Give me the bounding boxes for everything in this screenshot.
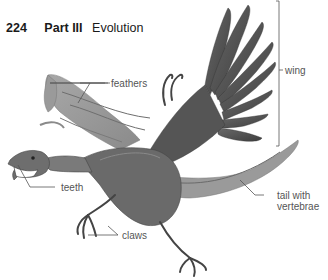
label-tail: tail with vertebrae — [277, 190, 319, 212]
wing-bracket — [276, 1, 283, 146]
wing-claws — [163, 75, 182, 105]
label-tail-line1: tail with — [277, 190, 319, 201]
label-tail-line2: vertebrae — [277, 201, 319, 212]
label-teeth: teeth — [61, 182, 83, 193]
head — [8, 150, 92, 180]
label-feathers: feathers — [111, 78, 147, 89]
label-claws: claws — [122, 230, 147, 241]
body — [80, 148, 181, 226]
right-wing — [150, 5, 276, 165]
archaeopteryx-illustration — [0, 0, 328, 280]
label-wing: wing — [285, 65, 306, 76]
